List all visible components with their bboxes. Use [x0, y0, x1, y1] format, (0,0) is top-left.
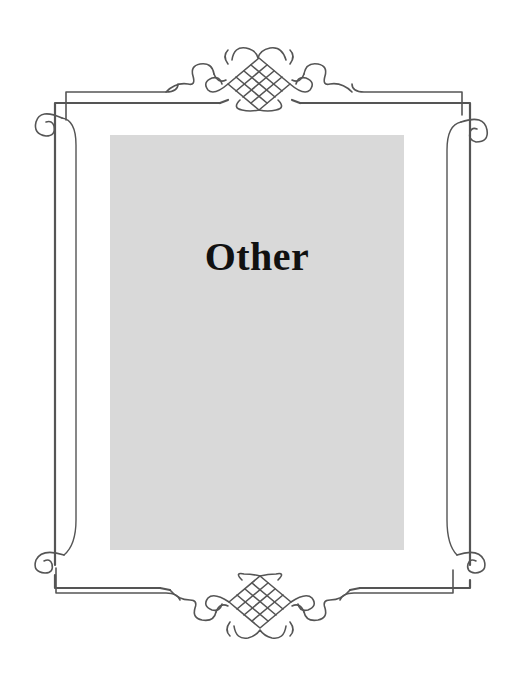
- gray-content-panel: Other: [110, 135, 404, 550]
- panel-title: Other: [110, 233, 404, 280]
- bottom-filigree-icon: [170, 574, 350, 639]
- top-filigree-icon: [166, 48, 352, 111]
